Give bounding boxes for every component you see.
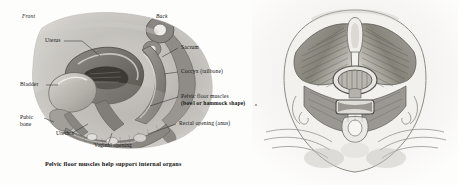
label-bladder: Bladder: [20, 81, 38, 88]
stray-mark: [255, 104, 257, 106]
orientation-back: Back: [156, 13, 168, 20]
pelvic-floor-muscles-inferior-view: [252, 0, 458, 185]
orientation-front: Front: [22, 13, 35, 20]
label-pubic-bone-top: Pubic: [20, 114, 33, 121]
buttock-shading-left: [304, 148, 344, 168]
buttock-shading-right: [366, 148, 406, 168]
label-uterus: Uterus: [45, 37, 61, 44]
label-sacrum: Sacrum: [181, 44, 199, 51]
pelvic-soft-tissue: [25, 5, 225, 155]
female-pelvis-sagittal-view: Front Back Uterus Sacrum Coccyx (tailbon…: [0, 0, 250, 185]
label-rectal-opening: Rectal opening (anus): [179, 120, 230, 127]
pelvic-floor-figure: Front Back Uterus Sacrum Coccyx (tailbon…: [0, 0, 458, 185]
label-vaginal-opening: Vaginal opening: [94, 142, 132, 149]
label-urethra: Urethra: [56, 130, 74, 137]
inferior-view-illustration: [252, 0, 458, 185]
label-pelvic-floor-shape: (bowl or hammock shape): [181, 100, 245, 107]
label-pubic-bone-bottom: bone: [20, 121, 31, 128]
label-pelvic-floor-muscles: Pelvic floor muscles: [181, 93, 229, 100]
figure-caption: Pelvic floor muscles help support intern…: [45, 160, 181, 167]
perineal-body: [349, 89, 361, 99]
label-coccyx: Coccyx (tailbone): [181, 68, 223, 75]
